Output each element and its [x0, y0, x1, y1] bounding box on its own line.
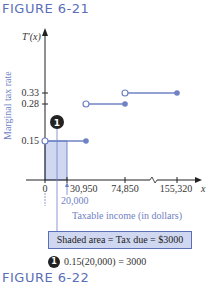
shaded-area-caption: Shaded area = Tax due = $3000: [48, 231, 192, 249]
note-equation: 0.15(20,000) = 3000: [64, 256, 146, 267]
x-tick-30950: 30,950: [70, 183, 98, 194]
y-tick-015: 0.15: [22, 135, 40, 146]
x-tick-0: 0: [43, 183, 48, 194]
axis-break-icon: [150, 177, 157, 183]
note-badge: 1: [48, 256, 60, 268]
y-axis-label: Marginal tax rate: [2, 71, 13, 140]
x-axis-symbol: x: [200, 183, 206, 194]
y-axis-arrow-icon: [42, 28, 48, 36]
x-tick-74850: 74,850: [111, 183, 139, 194]
marker-20000-label: 20,000: [61, 195, 89, 206]
x-tick-155320: 155,320: [160, 183, 193, 194]
y-axis-symbol: T′(x): [22, 31, 42, 43]
x-axis-label: Taxable income (in dollars): [72, 210, 182, 222]
y-tick-033: 0.33: [22, 87, 40, 98]
shaded-area: [45, 141, 67, 180]
y-tick-028: 0.28: [22, 98, 40, 109]
figure-label-bottom: FIGURE 6-22: [2, 270, 89, 285]
svg-text:1: 1: [54, 118, 60, 128]
